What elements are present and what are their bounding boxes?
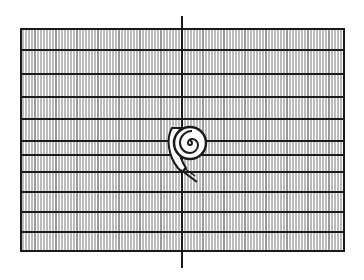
grid-spiral-figure <box>0 0 364 280</box>
